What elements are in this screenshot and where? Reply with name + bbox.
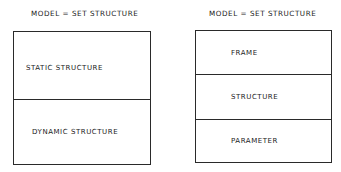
parameter-label: PARAMETER [231, 136, 278, 146]
right-diagram-title: MODEL = SET STRUCTURE [209, 9, 316, 19]
right-section-divider-1 [196, 74, 331, 75]
left-section-divider [14, 99, 150, 100]
left-model-box: STATIC STRUCTURE DYNAMIC STRUCTURE [13, 31, 151, 165]
right-section-divider-2 [196, 119, 331, 120]
frame-label: FRAME [231, 48, 258, 58]
dynamic-structure-label: DYNAMIC STRUCTURE [32, 127, 118, 137]
structure-label: STRUCTURE [231, 92, 278, 102]
left-diagram-title: MODEL = SET STRUCTURE [31, 9, 138, 19]
right-model-box: FRAME STRUCTURE PARAMETER [195, 30, 332, 163]
static-structure-label: STATIC STRUCTURE [26, 63, 103, 73]
